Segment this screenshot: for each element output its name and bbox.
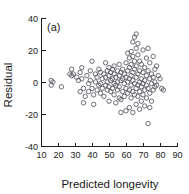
data-point <box>131 40 135 44</box>
data-point <box>117 62 121 66</box>
data-point <box>112 93 116 97</box>
x-axis-tick-label: 60 <box>121 150 131 160</box>
data-point <box>134 46 138 50</box>
data-point <box>134 102 138 106</box>
x-axis-tick-label: 80 <box>155 150 165 160</box>
data-point <box>146 46 150 50</box>
x-axis-tick-label: 40 <box>87 150 97 160</box>
x-axis-tick-label: 90 <box>172 150 182 160</box>
data-point <box>119 110 123 114</box>
panel-label: (a) <box>47 21 60 33</box>
x-axis-tick-label: 20 <box>53 150 63 160</box>
data-point <box>144 96 148 100</box>
data-point <box>81 86 85 90</box>
y-axis-tick-label: -40 <box>25 142 38 152</box>
data-point <box>92 102 96 106</box>
data-point <box>127 105 131 109</box>
data-point <box>132 59 136 63</box>
y-axis-tick-label: 20 <box>28 46 38 56</box>
data-point <box>146 121 150 125</box>
data-point <box>148 61 152 65</box>
data-point <box>149 99 153 103</box>
data-points-group <box>49 32 166 126</box>
x-axis-title: Predicted longevity <box>61 178 158 190</box>
x-axis-tick-label: 70 <box>138 150 148 160</box>
data-point <box>141 48 145 52</box>
data-point <box>139 99 143 103</box>
data-point <box>131 110 135 114</box>
data-point <box>90 86 94 90</box>
data-point <box>151 54 155 58</box>
data-point <box>88 69 92 73</box>
data-point <box>114 101 118 105</box>
x-axis-tick-label: 50 <box>104 150 114 160</box>
data-point <box>69 67 73 71</box>
data-point <box>80 65 84 69</box>
data-point <box>78 70 82 74</box>
data-point <box>85 73 89 77</box>
x-axis-tick-label: 30 <box>70 150 80 160</box>
data-point <box>102 94 106 98</box>
data-point <box>59 85 63 89</box>
plot-canvas: 102030405060708090-40-2002040 Predicted … <box>0 0 189 194</box>
data-point <box>136 53 140 57</box>
y-axis-tick-label: 0 <box>33 78 38 88</box>
y-axis-tick-label: -20 <box>25 110 38 120</box>
data-point <box>107 99 111 103</box>
data-point <box>143 104 147 108</box>
y-axis-title: Residual <box>2 63 14 108</box>
data-point <box>103 61 107 65</box>
data-point <box>92 93 96 97</box>
data-point <box>144 56 148 60</box>
data-point <box>124 61 128 65</box>
data-point <box>136 41 140 45</box>
data-point <box>83 94 87 98</box>
data-point <box>148 105 152 109</box>
data-point <box>137 107 141 111</box>
data-point <box>90 59 94 63</box>
scatter-plot-figure: 102030405060708090-40-2002040 Predicted … <box>0 0 189 194</box>
data-point <box>81 101 85 105</box>
y-axis-tick-label: 40 <box>28 14 38 24</box>
